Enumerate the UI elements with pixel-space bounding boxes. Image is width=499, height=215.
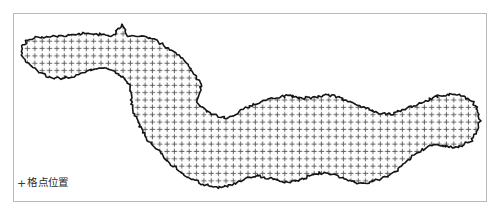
map-canvas <box>14 14 486 201</box>
map-frame <box>13 13 487 202</box>
figure-root: + 格点位置 <box>0 0 499 215</box>
